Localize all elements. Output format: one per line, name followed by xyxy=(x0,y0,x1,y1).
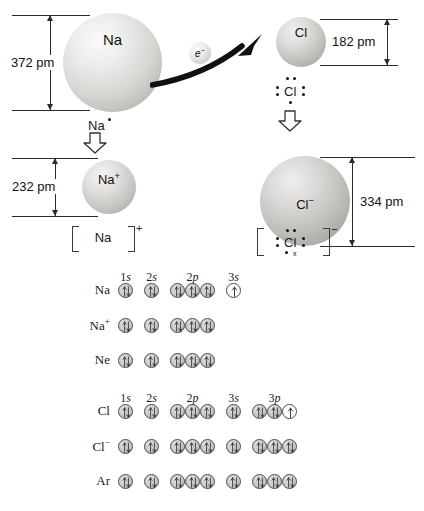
sodium-ion-diameter-label: 232 pm xyxy=(10,179,57,194)
orbital-electron-pair xyxy=(185,318,200,333)
orbital-diagram-sodium: 1s2s2p3s NaNa+Ne xyxy=(0,270,424,385)
chloride-ion-diameter-label: 334 pm xyxy=(358,194,405,209)
sodium-ion-sphere: Na+ xyxy=(82,160,136,214)
chloride-lewis-structure: Cl x xyxy=(284,235,296,250)
orbital-electron-pair xyxy=(252,474,267,489)
orbital-electron-pair xyxy=(170,404,185,419)
orbital-row-label-Cl: Cl xyxy=(50,403,110,419)
orbital-electron-pair xyxy=(267,474,282,489)
transferred-electron-mark: x xyxy=(293,250,297,257)
sodium-atom-lewis-structure: Na xyxy=(88,118,105,133)
orbital-diagram-chlorine: 1s2s2p3s3p ClCl−Ar xyxy=(0,385,424,510)
orbital-electron-pair xyxy=(185,474,200,489)
orbital-electron-pair xyxy=(200,439,215,454)
chlorine-atom-group: Cl 182 pm xyxy=(212,0,424,130)
orbital-electron-pair xyxy=(170,353,185,368)
orbital-electron-pair xyxy=(118,439,133,454)
chlorine-lewis-symbol: Cl xyxy=(284,84,296,99)
transferred-electron-sphere: e− xyxy=(189,42,211,64)
orbital-electron-pair xyxy=(200,283,215,298)
orbital-electron-pair xyxy=(226,439,241,454)
orbital-electron-pair xyxy=(200,474,215,489)
chlorine-atom-sphere: Cl xyxy=(276,17,326,67)
orbital-electron-pair xyxy=(200,404,215,419)
orbital-electron-pair xyxy=(170,283,185,298)
chlorine-lewis-structure: Cl xyxy=(284,84,296,99)
chloride-ion-bracket-charge: − xyxy=(331,223,337,235)
chlorine-atom-symbol: Cl xyxy=(276,25,326,40)
orbital-electron-pair xyxy=(200,318,215,333)
chloride-ion-group: Cl− 334 pm Cl x − xyxy=(212,140,424,265)
orbital-electron-pair xyxy=(226,474,241,489)
chloride-lewis-symbol: Cl xyxy=(284,235,296,250)
chlorine-atom-diameter-label: 182 pm xyxy=(330,34,377,49)
orbital-electron-pair xyxy=(144,404,159,419)
orbital-electron-pair xyxy=(118,353,133,368)
orbital-electron-pair xyxy=(144,474,159,489)
orbital-electron-pair xyxy=(252,404,267,419)
sodium-ion-bracket-charge: + xyxy=(136,222,142,234)
orbital-electron-pair xyxy=(170,474,185,489)
sodium-ion-bracket-label: Na xyxy=(72,230,134,245)
orbital-electron-pair xyxy=(185,439,200,454)
orbital-single-electron xyxy=(226,283,241,298)
orbital-row-label-Na: Na xyxy=(50,282,110,298)
orbital-electron-pair xyxy=(185,283,200,298)
orbital-electron-pair xyxy=(118,283,133,298)
orbital-electron-pair xyxy=(282,474,297,489)
orbital-electron-pair xyxy=(144,318,159,333)
orbital-electron-pair xyxy=(185,404,200,419)
sodium-atom-symbol: Na xyxy=(63,31,162,48)
sodium-atom-diameter-label: 372 pm xyxy=(9,55,56,70)
sodium-ion-group: 232 pm Na+ Na + xyxy=(0,150,212,260)
orbital-electron-pair xyxy=(282,439,297,454)
orbital-electron-pair xyxy=(170,318,185,333)
sodium-ion-symbol: Na+ xyxy=(82,171,136,187)
orbital-row-label-Naplus: Na+ xyxy=(50,317,110,334)
sodium-lewis-symbol: Na xyxy=(88,118,105,133)
orbital-single-electron xyxy=(282,404,297,419)
chloride-ion-symbol: Cl− xyxy=(260,196,350,212)
electron-label: e− xyxy=(189,46,211,59)
orbital-electron-pair xyxy=(118,318,133,333)
orbital-electron-pair xyxy=(144,283,159,298)
orbital-electron-pair xyxy=(144,439,159,454)
orbital-electron-pair xyxy=(252,439,267,454)
orbital-electron-pair xyxy=(170,439,185,454)
orbital-electron-pair xyxy=(267,439,282,454)
orbital-electron-pair xyxy=(144,353,159,368)
orbital-row-label-Ne: Ne xyxy=(50,352,110,368)
orbital-electron-pair xyxy=(185,353,200,368)
orbital-row-label-Ar: Ar xyxy=(50,473,110,489)
orbital-electron-pair xyxy=(118,404,133,419)
orbital-electron-pair xyxy=(267,404,282,419)
orbital-row-label-Cl-: Cl− xyxy=(50,438,110,455)
orbital-electron-pair xyxy=(118,474,133,489)
sodium-atom-sphere: Na xyxy=(63,13,162,112)
chlorine-transformation-arrow xyxy=(277,110,303,132)
orbital-electron-pair xyxy=(226,404,241,419)
orbital-electron-pair xyxy=(200,353,215,368)
